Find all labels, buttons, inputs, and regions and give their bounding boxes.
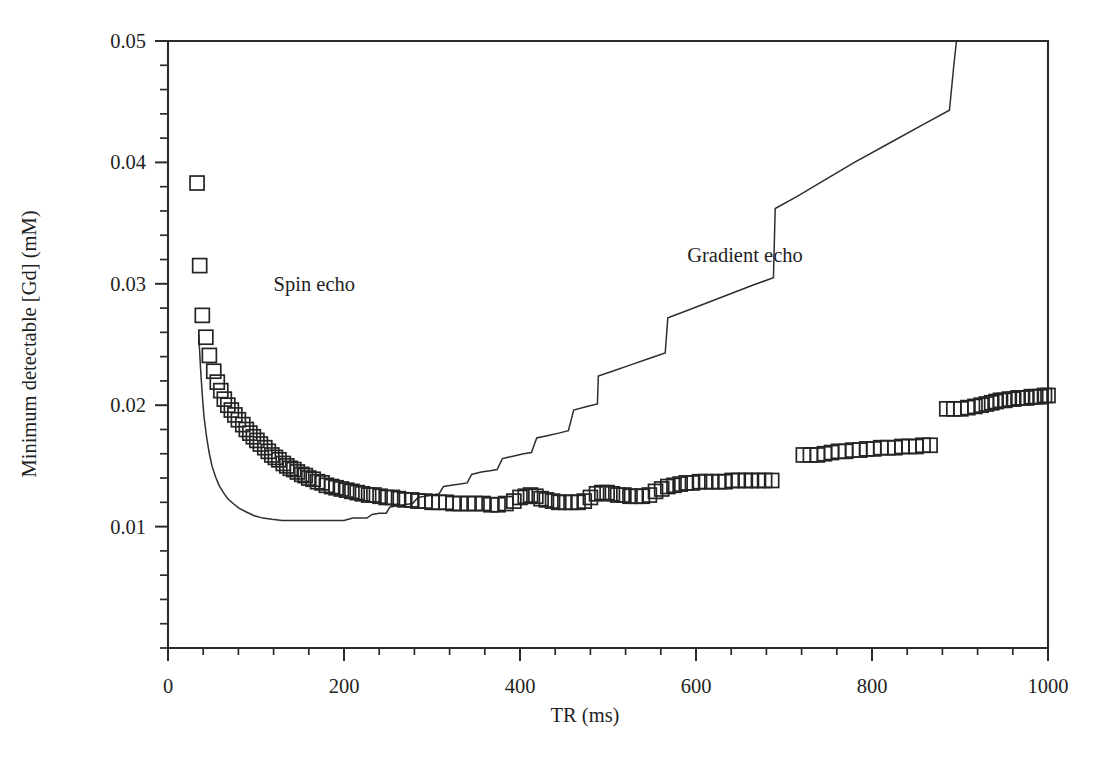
x-tick-label: 1000 (1028, 675, 1069, 697)
data-point-marker (190, 176, 204, 190)
y-tick-label: 0.03 (110, 273, 146, 295)
data-point-marker (207, 364, 221, 378)
data-point-marker (1020, 391, 1034, 405)
data-point-marker (195, 308, 209, 322)
series-annotation-label: Spin echo (274, 273, 355, 296)
y-tick-label: 0.02 (110, 394, 146, 416)
y-axis-title: Minimum detectable [Gd] (mM) (18, 210, 41, 477)
data-point-marker (1037, 388, 1051, 402)
chart-annotations: Spin echoGradient echo (274, 244, 803, 296)
x-axis-ticks (168, 648, 1048, 661)
data-point-marker (476, 497, 490, 511)
y-tick-label: 0.05 (110, 30, 146, 52)
data-point-marker (1033, 390, 1047, 404)
data-point-marker (1002, 392, 1016, 406)
data-point-marker (199, 330, 213, 344)
data-point-marker (202, 348, 216, 362)
data-point-marker (193, 259, 207, 273)
data-point-marker (998, 393, 1012, 407)
chart-canvas: 02004006008001000 0.010.020.030.040.05 S… (0, 0, 1110, 774)
y-tick-label: 0.01 (110, 516, 146, 538)
spin-echo-marker-series (190, 176, 1055, 512)
y-axis-ticks (155, 41, 168, 648)
x-tick-label: 600 (681, 675, 712, 697)
figure-root: 02004006008001000 0.010.020.030.040.05 S… (0, 0, 1110, 774)
x-axis-tick-labels: 02004006008001000 (163, 675, 1069, 697)
data-point-marker (1015, 391, 1029, 405)
y-axis-tick-labels: 0.010.020.030.040.05 (110, 30, 146, 538)
x-tick-label: 800 (857, 675, 888, 697)
x-tick-label: 400 (505, 675, 536, 697)
axes-group (168, 41, 1048, 648)
data-point-marker (1024, 390, 1038, 404)
y-tick-label: 0.04 (110, 151, 146, 173)
data-point-marker (214, 384, 228, 398)
x-tick-label: 0 (163, 675, 173, 697)
data-point-marker (1007, 392, 1021, 406)
x-axis-title: TR (ms) (551, 704, 620, 727)
x-tick-label: 200 (329, 675, 360, 697)
data-point-marker (210, 375, 224, 389)
data-point-marker (1011, 391, 1025, 405)
series-annotation-label: Gradient echo (687, 244, 803, 266)
